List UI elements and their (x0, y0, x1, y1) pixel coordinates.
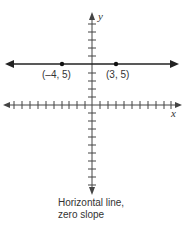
point-label-3-5: (3, 5) (106, 69, 129, 80)
coordinate-plane (0, 0, 185, 227)
caption-line-1: Horizontal line, (58, 197, 124, 209)
point-label-neg4-5: (–4, 5) (42, 69, 71, 80)
caption-line-2: zero slope (58, 209, 124, 221)
x-axis-label: x (171, 107, 176, 119)
point-3-5 (114, 62, 118, 66)
y-axis-label: y (98, 10, 103, 22)
line-right-arrow-icon (170, 60, 179, 68)
caption: Horizontal line, zero slope (58, 197, 124, 221)
y-axis-down-arrow-icon (89, 187, 95, 195)
y-axis-up-arrow-icon (89, 12, 95, 20)
y-axis (88, 12, 96, 195)
point-neg4-5 (60, 62, 64, 66)
x-axis-right-arrow-icon (175, 102, 182, 108)
x-axis-left-arrow-icon (3, 102, 10, 108)
line-left-arrow-icon (5, 60, 14, 68)
